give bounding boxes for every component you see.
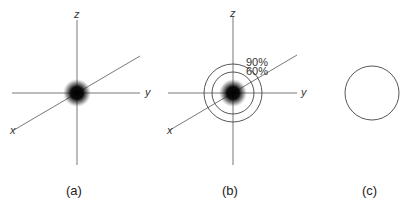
z-label: z [73, 8, 80, 20]
caption-a: (a) [66, 183, 82, 198]
contour-60-label: 60% [246, 65, 268, 77]
caption-b: (b) [222, 183, 238, 198]
x-label: x [9, 124, 16, 136]
boundary-surface [345, 66, 399, 120]
y-label: y [300, 86, 308, 98]
caption-c: (c) [362, 183, 377, 198]
panel-c: (c) [345, 66, 399, 198]
diagram-canvas: z x (a) 90% 60% z y x (b) y (c) [0, 0, 406, 206]
panel-b: 90% 60% z y x (b) [166, 7, 308, 198]
electron-cloud [63, 79, 91, 107]
z-label: z [229, 7, 236, 19]
electron-cloud [219, 79, 247, 107]
x-label: x [166, 124, 173, 136]
panel-a: z x (a) [9, 8, 140, 198]
y-label-a: y [144, 86, 152, 98]
